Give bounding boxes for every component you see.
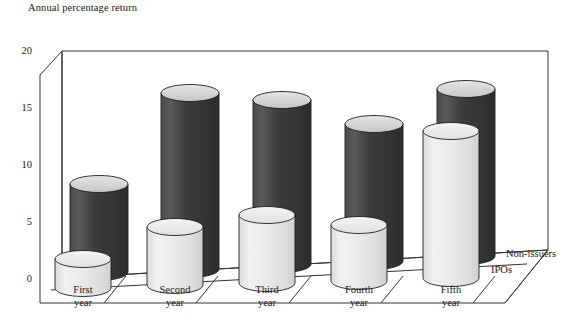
x-tick-second-year-line2: year <box>133 297 217 310</box>
chart-figure: Annual percentage return 20 15 10 5 0 Fi… <box>0 0 568 313</box>
y-tick-15: 15 <box>10 102 32 113</box>
bar-ipos-second-year <box>147 219 203 294</box>
x-tick-second-year: Second year <box>133 284 217 309</box>
legend-item-non-issuers: Non-issuers <box>506 248 556 259</box>
x-tick-first-year-line1: First <box>41 284 125 297</box>
x-tick-fifth-year-line1: Fifth <box>409 284 493 297</box>
y-tick-20: 20 <box>10 45 32 56</box>
chart-canvas <box>0 0 568 313</box>
x-tick-third-year: Third year <box>225 284 309 309</box>
x-tick-first-year: First year <box>41 284 125 309</box>
x-tick-second-year-line1: Second <box>133 284 217 297</box>
y-axis-title: Annual percentage return <box>28 2 137 13</box>
x-tick-third-year-line2: year <box>225 297 309 310</box>
bar-ipos-fifth-year <box>423 123 479 287</box>
x-tick-fifth-year-line2: year <box>409 297 493 310</box>
bar-ipos-fourth-year <box>331 217 387 290</box>
bar-ipos-third-year <box>239 207 295 292</box>
x-tick-fourth-year-line1: Fourth <box>317 284 401 297</box>
y-tick-10: 10 <box>10 159 32 170</box>
y-tick-5: 5 <box>10 216 32 227</box>
x-tick-fifth-year: Fifth year <box>409 284 493 309</box>
x-tick-first-year-line2: year <box>41 297 125 310</box>
legend-item-ipos: IPOs <box>491 264 512 275</box>
y-tick-0: 0 <box>10 273 32 284</box>
x-tick-fourth-year-line2: year <box>317 297 401 310</box>
x-tick-third-year-line1: Third <box>225 284 309 297</box>
x-tick-fourth-year: Fourth year <box>317 284 401 309</box>
